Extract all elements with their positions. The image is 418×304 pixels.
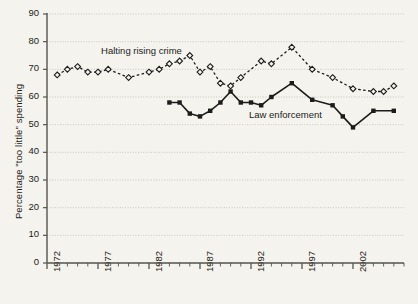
data-point-marker bbox=[249, 100, 253, 104]
crime-spending-line-chart: Percentage "too little" spending 0102030… bbox=[0, 0, 418, 304]
data-point-marker bbox=[54, 72, 60, 78]
data-point-marker bbox=[187, 53, 193, 59]
data-point-marker bbox=[228, 89, 232, 93]
data-point-marker bbox=[371, 89, 377, 95]
data-point-marker bbox=[146, 69, 152, 75]
data-point-marker bbox=[391, 83, 397, 89]
data-point-marker bbox=[351, 125, 355, 129]
data-point-marker bbox=[218, 100, 222, 104]
data-point-marker bbox=[126, 75, 132, 81]
data-point-marker bbox=[75, 64, 81, 70]
data-point-marker bbox=[85, 69, 91, 75]
data-point-marker bbox=[167, 61, 173, 67]
data-point-marker bbox=[371, 109, 375, 113]
data-point-marker bbox=[95, 69, 101, 75]
data-point-marker bbox=[105, 66, 111, 72]
data-point-marker bbox=[177, 58, 183, 64]
data-point-marker bbox=[330, 75, 336, 81]
data-point-marker bbox=[392, 109, 396, 113]
data-point-marker bbox=[218, 80, 224, 86]
data-point-marker bbox=[238, 75, 244, 81]
data-point-marker bbox=[290, 81, 294, 85]
data-point-marker bbox=[188, 111, 192, 115]
data-point-marker bbox=[177, 100, 181, 104]
data-point-marker bbox=[259, 103, 263, 107]
data-point-marker bbox=[207, 64, 213, 70]
data-point-marker bbox=[258, 58, 264, 64]
data-point-marker bbox=[350, 86, 356, 92]
data-point-marker bbox=[239, 100, 243, 104]
data-point-marker bbox=[156, 66, 162, 72]
data-point-marker bbox=[65, 66, 71, 72]
plot-area bbox=[0, 0, 418, 304]
data-point-marker bbox=[381, 89, 387, 95]
data-point-marker bbox=[208, 109, 212, 113]
data-point-marker bbox=[310, 98, 314, 102]
data-point-marker bbox=[198, 114, 202, 118]
data-point-marker bbox=[341, 114, 345, 118]
data-point-marker bbox=[197, 69, 203, 75]
data-point-marker bbox=[269, 95, 273, 99]
data-point-marker bbox=[330, 103, 334, 107]
data-point-marker bbox=[167, 100, 171, 104]
